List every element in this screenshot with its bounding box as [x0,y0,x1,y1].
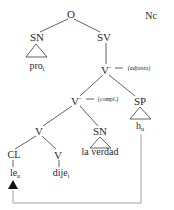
node-v-head: V [54,150,62,161]
terminal-dije: dijei [53,168,70,179]
node-v-inner: V [35,126,43,137]
movement-arrowhead-icon [8,180,18,189]
terminal-h: hu [136,121,144,132]
edge-v-cl [15,136,36,149]
tree-lines [0,0,174,210]
edge-v-v [42,136,56,149]
node-v-bar: V" [71,96,81,107]
corner-label: Nc [145,11,157,21]
adjunct-note: (adjunto) [128,65,150,71]
node-o: O [67,9,75,20]
edge-vbar-sn [80,106,98,126]
edge-vbar-v [43,106,72,126]
sn-triangle [26,44,47,57]
terminal-le: leu [10,168,20,179]
node-sn-subject: SN [30,32,44,43]
sp-triangle [130,107,151,119]
edge-vbar2-sp [109,75,135,96]
node-v-double-bar: V" [101,65,111,76]
node-cl: CL [8,150,21,160]
edge-vbar2-vbar [80,75,103,96]
edge-o-sn [40,19,68,32]
movement-line [13,134,141,203]
node-sn-object: SN [93,126,107,137]
node-sv: SV [97,32,111,43]
terminal-pro: proi [29,61,44,72]
node-sp: SP [134,96,146,107]
complement-note: (compl.) [98,96,119,102]
terminal-la-verdad: la verdad [82,147,119,157]
